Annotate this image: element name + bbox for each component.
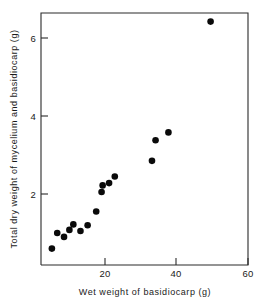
- data-points-layer: [49, 18, 214, 252]
- y-tick-label-2: 2: [31, 189, 36, 200]
- data-point: [152, 137, 159, 144]
- data-point: [61, 234, 68, 241]
- data-point: [106, 180, 113, 187]
- x-tick-label-40: 40: [171, 268, 182, 279]
- x-tick-label-60: 60: [243, 268, 254, 279]
- data-point: [49, 245, 56, 252]
- y-axis-title: Total dry weight of mycelium and basidio…: [9, 30, 19, 249]
- data-point: [98, 189, 105, 196]
- x-axis-title: Wet weight of basidiocarp (g): [79, 287, 211, 297]
- x-axis-ticks: [105, 258, 248, 265]
- y-tick-label-4: 4: [31, 111, 36, 122]
- data-point: [99, 182, 106, 189]
- y-axis-ticks: [41, 38, 48, 194]
- data-point: [84, 222, 91, 229]
- data-point: [165, 129, 172, 136]
- plot-canvas: 6 4 2 20 40 60 Wet weight of basidiocarp…: [0, 0, 273, 303]
- x-axis-tick-labels: 20 40 60: [100, 268, 254, 279]
- data-point: [112, 173, 119, 180]
- data-point: [54, 230, 61, 237]
- y-axis-tick-labels: 6 4 2: [31, 33, 36, 200]
- data-point: [66, 227, 73, 234]
- data-point: [77, 228, 84, 235]
- data-point: [70, 221, 77, 228]
- x-tick-label-20: 20: [100, 268, 111, 279]
- data-point: [93, 208, 100, 215]
- data-point: [149, 158, 156, 165]
- y-tick-label-6: 6: [31, 33, 36, 44]
- scatter-plot-figure: 6 4 2 20 40 60 Wet weight of basidiocarp…: [0, 0, 273, 303]
- data-point: [207, 18, 214, 25]
